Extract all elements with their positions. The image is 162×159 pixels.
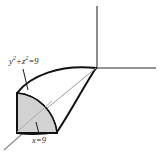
plane-equation-label: x=9 [32,136,46,145]
solid-region-diagram [0,0,162,159]
cylinder-value: 9 [34,56,38,66]
plane-value: 9 [42,135,46,145]
cylinder-equation-label: y2+z2=9 [9,57,39,66]
figure-canvas: y2+z2=9 x=9 [0,0,162,159]
